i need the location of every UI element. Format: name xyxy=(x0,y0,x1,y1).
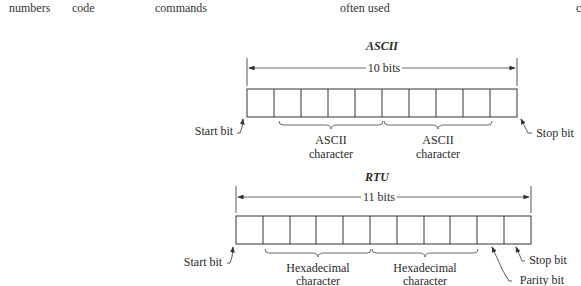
ascii-bit-cells xyxy=(247,89,517,117)
ascii-char1-label1: ASCII xyxy=(315,133,346,147)
rtu-char2-label2: character xyxy=(403,274,447,286)
ascii-char2-label2: character xyxy=(416,147,460,161)
frame-diagram: ASCII 10 bits ASCII character ASCII char… xyxy=(0,0,581,286)
ascii-char2-brace xyxy=(384,121,492,129)
rtu-start-pointer xyxy=(227,247,233,263)
ascii-char2-label1: ASCII xyxy=(422,133,453,147)
ascii-start-pointer xyxy=(237,119,243,133)
rtu-char2-label1: Hexadecimal xyxy=(393,261,457,275)
ascii-stop-pointer xyxy=(521,119,532,133)
rtu-char2-brace xyxy=(372,249,478,257)
rtu-stop-label: Stop bit xyxy=(529,253,567,267)
rtu-bit-cells xyxy=(236,216,531,244)
rtu-title: RTU xyxy=(364,170,390,184)
rtu-start-label: Start bit xyxy=(184,255,223,269)
rtu-char1-label2: character xyxy=(296,274,340,286)
rtu-parity-label: Parity bit xyxy=(520,273,565,286)
rtu-char1-label1: Hexadecimal xyxy=(286,261,350,275)
ascii-char1-brace xyxy=(279,121,383,129)
ascii-frame: ASCII 10 bits ASCII character ASCII char… xyxy=(195,39,575,161)
rtu-parity-pointer xyxy=(492,247,512,281)
ascii-char1-label2: character xyxy=(309,147,353,161)
rtu-stop-pointer xyxy=(516,247,525,261)
rtu-span-label: 11 bits xyxy=(363,190,395,204)
rtu-frame: RTU 11 bits Hexadecimal character Hexade… xyxy=(184,170,568,286)
ascii-title: ASCII xyxy=(365,39,399,53)
ascii-stop-label: Stop bit xyxy=(536,126,574,140)
ascii-span-label: 10 bits xyxy=(368,61,401,75)
ascii-start-label: Start bit xyxy=(195,124,234,138)
rtu-char1-brace xyxy=(265,249,371,257)
